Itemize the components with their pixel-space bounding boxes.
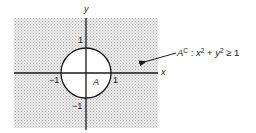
set-diagram: y x 1 −1 −1 1 A AC : x2 + y2 ≥ 1 <box>0 0 256 133</box>
annotation-expr-plus: + <box>204 47 215 58</box>
region-label-a: A <box>93 78 99 87</box>
annotation-separator: : <box>188 47 196 58</box>
y-tick-neg1: −1 <box>72 102 82 111</box>
y-axis-label: y <box>84 5 89 14</box>
complement-annotation: AC : x2 + y2 ≥ 1 <box>177 48 239 58</box>
annotation-expr-relation: ≥ 1 <box>224 47 240 58</box>
x-axis-label: x <box>161 68 166 77</box>
y-tick-1: 1 <box>78 36 83 45</box>
diagram-canvas <box>0 0 256 133</box>
x-tick-neg1: −1 <box>49 76 59 85</box>
x-tick-1: 1 <box>113 76 118 85</box>
